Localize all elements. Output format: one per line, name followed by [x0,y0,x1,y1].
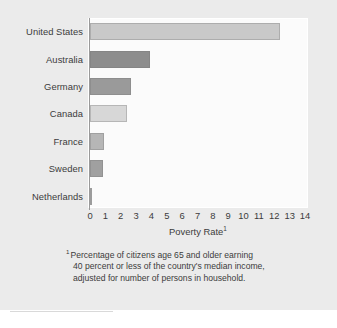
footnote-line-3: adjusted for number of persons in househ… [66,273,316,285]
x-tick-label: 10 [238,210,248,221]
x-axis-title-text: Poverty Rate [169,226,223,237]
bar-row: France [0,128,337,155]
category-label: United States [0,26,83,37]
bar [90,188,92,205]
bar [90,51,150,68]
x-tick-label: 0 [87,210,92,221]
x-tick-label: 13 [284,210,294,221]
x-axis-tick-labels: 01234567891011121314 [0,210,337,224]
bar [90,78,131,95]
bar-row: Germany [0,73,337,100]
bar-row: Canada [0,100,337,127]
bar-row: Netherlands [0,183,337,210]
x-tick-label: 14 [300,210,310,221]
bar-row: United States [0,18,337,45]
bar-row: Australia [0,45,337,72]
bar [90,105,127,122]
x-tick-label: 11 [254,210,264,221]
bar [90,133,104,150]
category-label: Sweden [0,163,83,174]
footnote-line-1: Percentage of citizens age 65 and older … [70,250,253,260]
x-axis-title: Poverty Rate1 [89,225,307,237]
x-tick-label: 6 [180,210,185,221]
footnote-marker: 1 [66,248,69,255]
category-label: Australia [0,54,83,65]
bar [90,160,103,177]
x-tick-label: 9 [226,210,231,221]
bar-rows: United StatesAustraliaGermanyCanadaFranc… [0,18,337,210]
page-bottom-margin [0,310,337,328]
chart-figure: United StatesAustraliaGermanyCanadaFranc… [0,0,337,328]
footnote: 1Percentage of citizens age 65 and older… [66,246,316,285]
category-label: Canada [0,108,83,119]
x-tick-label: 12 [269,210,279,221]
x-tick-label: 2 [118,210,123,221]
x-tick-label: 4 [149,210,154,221]
category-label: Netherlands [0,191,83,202]
bar-row: Sweden [0,155,337,182]
x-tick-label: 1 [103,210,108,221]
page-bottom-rule [10,311,113,312]
x-tick-label: 8 [210,210,215,221]
bar [90,23,280,40]
x-tick-label: 5 [164,210,169,221]
x-axis-title-superscript: 1 [223,225,227,232]
category-label: Germany [0,81,83,92]
footnote-line-2: 40 percent or less of the country's medi… [66,261,316,273]
category-label: France [0,136,83,147]
x-tick-label: 7 [195,210,200,221]
x-tick-label: 3 [133,210,138,221]
